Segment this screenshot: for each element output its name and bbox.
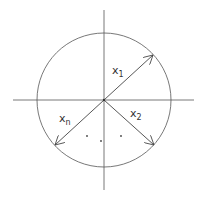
diagram-canvas: x1 x2 xn xyxy=(0,0,204,199)
vector-x2 xyxy=(104,100,154,145)
label-xn: xn xyxy=(59,112,71,127)
label-x1: x1 xyxy=(112,64,124,79)
label-x2: x2 xyxy=(130,107,142,122)
vector-x1 xyxy=(104,55,153,100)
origin-point xyxy=(103,99,105,101)
